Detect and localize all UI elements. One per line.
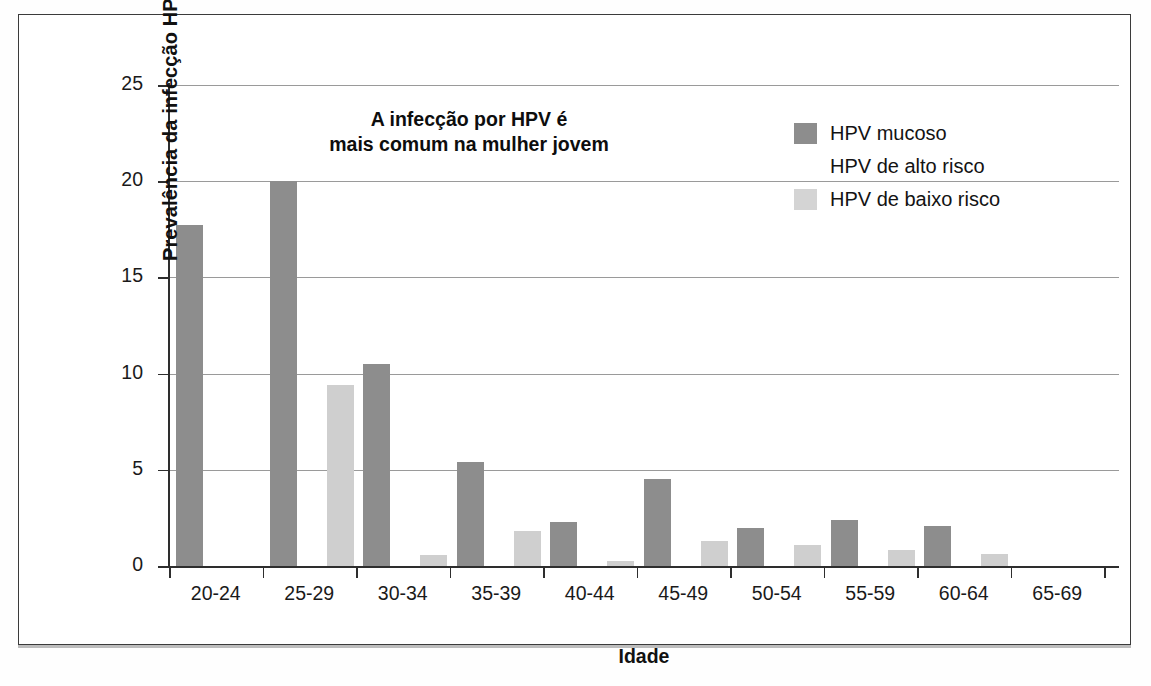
x-tick-5 [637,567,639,578]
bar-40-44-baixo [607,561,634,566]
legend-swatch-baixo [794,189,817,210]
legend-label-alto: HPV de alto risco [830,155,985,178]
y-tick-10 [158,374,169,376]
legend-item-alto: HPV de alto risco [794,150,1000,183]
legend-swatch-mucoso [794,123,817,144]
gridline-15 [169,277,1119,278]
plot-area: 0510152025 20-2425-2930-3435-3940-4445-4… [169,85,1119,566]
bar-55-59-baixo [888,550,915,566]
x-tick-1 [263,567,265,578]
y-tick-label-5: 5 [97,457,143,480]
bar-50-54-baixo [794,545,821,566]
x-tick-8 [917,567,919,578]
y-axis-title: Prevalência da infecção HPV (%) [159,0,182,261]
x-axis-title: Idade [169,645,1119,668]
x-tick-label-40-44: 40-44 [543,582,637,605]
bar-25-29-baixo [327,385,354,566]
x-tick-3 [450,567,452,578]
x-tick-label-50-54: 50-54 [730,582,824,605]
x-tick-label-30-34: 30-34 [356,582,450,605]
x-tick-2 [356,567,358,578]
bar-60-64-baixo [981,554,1008,567]
gridline-5 [169,470,1119,471]
bar-50-54-mucoso [737,528,764,566]
y-tick-label-25: 25 [97,72,143,95]
gridline-10 [169,374,1119,375]
annotation-line-2: mais comum na mulher jovem [289,132,649,157]
x-tick-6 [730,567,732,578]
x-tick-label-20-24: 20-24 [169,582,263,605]
legend-swatch-alto [794,156,817,177]
y-tick-15 [158,277,169,279]
gridline-25 [169,85,1119,86]
x-tick-label-65-69: 65-69 [1011,582,1105,605]
x-tick-0 [169,567,171,578]
x-tick-9 [1011,567,1013,578]
x-tick-7 [824,567,826,578]
bar-35-39-mucoso [457,462,484,566]
x-tick-label-45-49: 45-49 [637,582,731,605]
bar-20-24-mucoso [176,225,203,566]
x-tick-10 [1104,567,1106,578]
y-tick-label-0: 0 [97,553,143,576]
bar-45-49-baixo [701,541,728,566]
y-tick-0 [158,566,169,568]
legend-item-baixo: HPV de baixo risco [794,183,1000,216]
bar-45-49-mucoso [644,479,671,566]
bar-35-39-baixo [514,531,541,566]
x-tick-label-25-29: 25-29 [263,582,357,605]
legend-label-mucoso: HPV mucoso [830,122,947,145]
chart-legend: HPV mucosoHPV de alto riscoHPV de baixo … [794,117,1000,216]
y-tick-label-10: 10 [97,361,143,384]
figure-frame: 0510152025 20-2425-2930-3435-3940-4445-4… [18,14,1131,645]
bar-60-64-mucoso [924,526,951,566]
x-tick-4 [543,567,545,578]
y-tick-label-20: 20 [97,168,143,191]
y-tick-5 [158,470,169,472]
bar-25-29-mucoso [270,181,297,566]
chart-page: 0510152025 20-2425-2930-3435-3940-4445-4… [0,0,1151,686]
bar-30-34-baixo [420,555,447,566]
x-tick-label-35-39: 35-39 [450,582,544,605]
annotation-line-1: A infecção por HPV é [289,107,649,132]
legend-label-baixo: HPV de baixo risco [830,188,1000,211]
y-tick-label-15: 15 [97,264,143,287]
bar-40-44-mucoso [550,522,577,566]
x-tick-label-55-59: 55-59 [824,582,918,605]
chart-annotation: A infecção por HPV é mais comum na mulhe… [289,107,649,157]
bar-55-59-mucoso [831,520,858,566]
x-axis-line [168,566,1119,568]
bar-30-34-mucoso [363,364,390,566]
legend-item-mucoso: HPV mucoso [794,117,1000,150]
x-tick-label-60-64: 60-64 [917,582,1011,605]
